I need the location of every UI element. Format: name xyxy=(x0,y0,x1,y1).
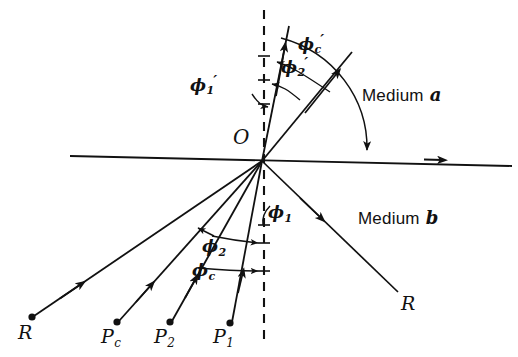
phi-glyph: ϕ xyxy=(190,75,206,95)
phi-subscript: 2 xyxy=(219,246,227,259)
source-label-P2: P2 xyxy=(154,327,175,349)
phi-subscript: 1 xyxy=(285,212,293,225)
phi-glyph: ϕ xyxy=(281,57,297,77)
origin-label: O xyxy=(233,127,249,147)
source-subscript: 2 xyxy=(167,336,175,350)
phi-subscript: c xyxy=(209,270,216,283)
medium-b-text: Medium xyxy=(358,209,420,228)
angle-label-phi-c-prime: ϕc′ xyxy=(298,33,324,55)
incident-rays xyxy=(28,161,262,327)
source-letter: P xyxy=(101,325,114,347)
source-dot-Pc xyxy=(113,318,120,325)
angle-label-phi-1: ϕ1 xyxy=(268,204,292,224)
medium-a-label: Mediuma xyxy=(362,86,442,104)
phi-glyph: ϕ xyxy=(298,34,314,54)
source-letter: R xyxy=(18,321,32,343)
angle-label-phi-c: ϕc xyxy=(192,262,215,282)
phi-prime: ′ xyxy=(304,54,308,72)
phi-glyph: ϕ xyxy=(192,260,208,280)
source-subscript: c xyxy=(114,336,121,350)
source-dot-P1 xyxy=(226,319,233,326)
medium-a-symbol: a xyxy=(430,84,442,105)
medium-a-text: Medium xyxy=(362,86,424,105)
phi-prime: ′ xyxy=(320,31,324,49)
phi-glyph: ϕ xyxy=(202,236,218,256)
medium-b-label: Mediumb xyxy=(358,209,438,227)
phi-prime: ′ xyxy=(213,72,217,90)
source-letter: P xyxy=(154,325,167,347)
optics-ray-diagram: O Mediuma Mediumb ϕ1′ ϕ2′ ϕc′ ϕ1 ϕ2 ϕc R… xyxy=(0,0,518,357)
source-dot-P2 xyxy=(166,318,173,325)
medium-b-symbol: b xyxy=(426,207,439,228)
source-letter: P xyxy=(213,325,226,347)
source-dot-R xyxy=(28,313,35,320)
reflected-ray-label-R: R xyxy=(401,294,415,313)
angle-label-phi-2-prime: ϕ2′ xyxy=(281,56,308,78)
interface-line xyxy=(70,156,512,166)
diagram-canvas xyxy=(0,0,518,357)
angle-label-phi-2: ϕ2 xyxy=(202,238,226,258)
phi-glyph: ϕ xyxy=(268,202,284,222)
source-label-P1: P1 xyxy=(213,327,234,349)
source-label-R: R xyxy=(18,323,32,342)
source-label-Pc: Pc xyxy=(101,327,121,349)
source-subscript: 1 xyxy=(226,336,234,350)
angle-label-phi-1-prime: ϕ1′ xyxy=(190,74,217,96)
